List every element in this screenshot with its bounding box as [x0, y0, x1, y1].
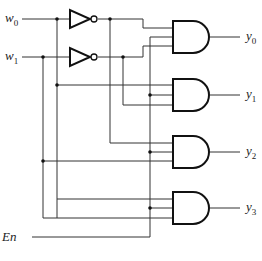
output-label-y1: y1 [246, 87, 256, 104]
junction-dot [148, 93, 152, 97]
junction-dot [148, 206, 152, 210]
inverter-w0 [70, 10, 90, 28]
junction-dot [121, 55, 125, 59]
junction-dot [41, 55, 45, 59]
inverter-bubble [91, 16, 97, 22]
output-label-y0: y0 [246, 29, 256, 46]
input-label-en: En [2, 230, 16, 243]
input-label-w0: w0 [5, 11, 18, 28]
and-gate-y3 [173, 192, 209, 224]
junction-dot [108, 17, 112, 21]
output-label-y2: y2 [246, 144, 256, 161]
output-label-y3: y3 [246, 200, 256, 217]
and-gate-y0 [173, 21, 209, 53]
junction-dot [41, 159, 45, 163]
junction-dot [55, 83, 59, 87]
and-gate-y1 [173, 79, 209, 111]
inverter-bubble [91, 54, 97, 60]
junction-dot [55, 17, 59, 21]
decoder-circuit [0, 0, 262, 261]
inverter-w1 [70, 48, 90, 66]
junction-dot [148, 150, 152, 154]
and-gate-y2 [173, 136, 209, 168]
input-label-w1: w1 [5, 49, 18, 66]
